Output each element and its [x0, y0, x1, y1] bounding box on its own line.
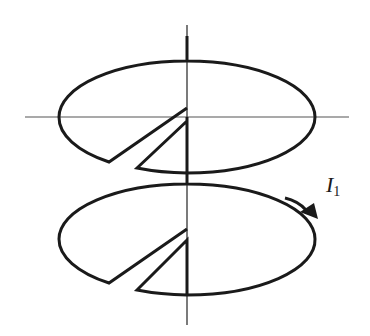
- helical-coil-diagram: [0, 0, 370, 336]
- current-label: I1: [326, 172, 340, 200]
- current-subscript: 1: [333, 184, 340, 199]
